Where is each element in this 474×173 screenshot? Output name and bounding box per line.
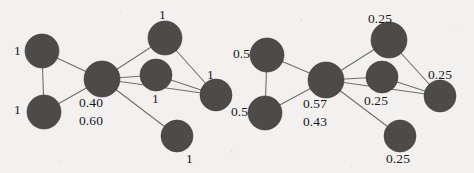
- node-value-label: 0.5: [231, 105, 248, 119]
- graph-node[interactable]: [140, 59, 172, 91]
- secondary-value-label: 0.43: [303, 115, 327, 129]
- graph-node[interactable]: [384, 120, 416, 152]
- node-value-label: 1: [207, 68, 214, 82]
- node-value-label: 1: [14, 103, 21, 117]
- secondary-value-label: 0.60: [79, 114, 103, 128]
- graph-svg: [0, 0, 474, 173]
- scan-speck: [455, 30, 457, 32]
- node-value-label: 0.40: [79, 96, 103, 110]
- scan-speck: [300, 18, 303, 21]
- graph-node[interactable]: [248, 96, 282, 130]
- node-value-label: 0.25: [428, 68, 452, 82]
- node-value-label: 0.25: [364, 94, 388, 108]
- graph-node[interactable]: [366, 61, 398, 93]
- scan-speck: [230, 150, 233, 153]
- scan-speck: [120, 12, 122, 14]
- right-graph-edges: [265, 40, 440, 136]
- scan-speck: [350, 165, 352, 167]
- graph-node[interactable]: [371, 22, 407, 58]
- figure-canvas: 110.4011110.600.50.50.570.250.250.250.25…: [0, 0, 474, 173]
- node-value-label: 0.5: [233, 47, 250, 61]
- node-value-label: 1: [186, 152, 193, 166]
- graph-node[interactable]: [84, 61, 120, 97]
- node-value-label: 0.57: [303, 97, 327, 111]
- node-value-label: 1: [159, 8, 166, 22]
- graph-node[interactable]: [250, 38, 284, 72]
- graph-node[interactable]: [308, 62, 344, 98]
- node-value-label: 0.25: [386, 152, 410, 166]
- scan-speck: [410, 160, 412, 162]
- node-value-label: 0.25: [368, 12, 392, 26]
- node-value-label: 1: [152, 92, 159, 106]
- left-graph-nodes: [25, 21, 232, 152]
- scan-speck: [60, 160, 62, 162]
- graph-node[interactable]: [424, 80, 456, 112]
- graph-node[interactable]: [161, 120, 193, 152]
- node-value-label: 1: [14, 44, 21, 58]
- right-graph-nodes: [248, 22, 456, 152]
- left-graph-edges: [42, 38, 216, 136]
- graph-node[interactable]: [148, 21, 182, 55]
- graph-node[interactable]: [200, 79, 232, 111]
- node-layer: [25, 21, 456, 152]
- graph-node[interactable]: [27, 95, 61, 129]
- graph-node[interactable]: [25, 34, 59, 68]
